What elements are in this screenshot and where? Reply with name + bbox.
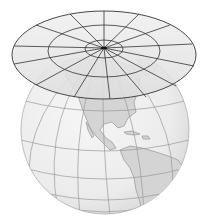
tangent-point bbox=[101, 47, 107, 49]
projection-illustration bbox=[0, 0, 205, 219]
projection-plane bbox=[12, 11, 196, 99]
projection-figure: Planar (azimuthal) projection bbox=[0, 0, 205, 219]
